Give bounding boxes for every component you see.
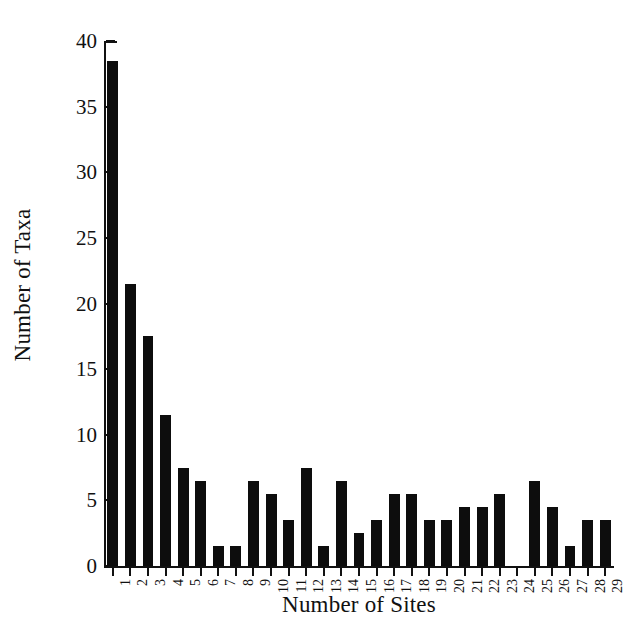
x-tick-label: 17 [400, 579, 414, 593]
y-tick-label: 40 [57, 31, 97, 52]
x-tick-mark [340, 568, 342, 576]
x-tick-label: 15 [365, 579, 379, 593]
x-tick-label: 1 [119, 579, 133, 586]
x-tick-mark [217, 568, 219, 576]
x-tick-label: 23 [506, 579, 520, 593]
x-tick-label: 27 [576, 579, 590, 593]
x-tick-mark [288, 568, 290, 576]
y-axis-title: Number of Taxa [0, 0, 46, 570]
bar [266, 494, 277, 566]
bar [600, 520, 611, 566]
x-tick-label: 26 [558, 579, 572, 593]
y-axis-title-text: Number of Taxa [10, 209, 36, 362]
x-tick-label: 16 [383, 579, 397, 593]
bar [547, 507, 558, 566]
x-tick-mark [358, 568, 360, 576]
bar [494, 494, 505, 566]
x-tick-mark [165, 568, 167, 576]
x-tick-mark [604, 568, 606, 576]
x-tick-mark [411, 568, 413, 576]
x-tick-label: 28 [594, 579, 608, 593]
x-tick-mark [129, 568, 131, 576]
x-tick-mark [182, 568, 184, 576]
x-tick-label: 29 [611, 579, 625, 593]
bar [195, 481, 206, 566]
x-tick-mark [499, 568, 501, 576]
bar [318, 546, 329, 566]
x-tick-mark [200, 568, 202, 576]
bar [336, 481, 347, 566]
x-tick-label: 20 [453, 579, 467, 593]
x-tick-label: 18 [418, 579, 432, 593]
x-tick-mark [305, 568, 307, 576]
bar [406, 494, 417, 566]
x-tick-label: 5 [189, 579, 203, 586]
x-tick-mark [446, 568, 448, 576]
bar [125, 284, 136, 566]
x-tick-label: 19 [435, 579, 449, 593]
bar [582, 520, 593, 566]
bar [283, 520, 294, 566]
x-tick-mark [551, 568, 553, 576]
y-tick-label: 5 [57, 490, 97, 511]
x-tick-label: 11 [295, 579, 309, 592]
y-tick-label: 15 [57, 359, 97, 380]
y-tick-label: 10 [57, 424, 97, 445]
x-tick-label: 24 [523, 579, 537, 593]
bars-group [104, 41, 614, 566]
x-tick-mark [270, 568, 272, 576]
x-tick-label: 21 [471, 579, 485, 593]
x-tick-label: 12 [312, 579, 326, 593]
x-tick-label: 6 [207, 579, 221, 586]
x-tick-mark [587, 568, 589, 576]
x-tick-mark [235, 568, 237, 576]
x-tick-label: 2 [136, 579, 150, 586]
x-tick-label: 25 [541, 579, 555, 593]
bar [301, 468, 312, 566]
x-tick-mark [516, 568, 518, 576]
x-tick-mark [252, 568, 254, 576]
bar [248, 481, 259, 566]
bar [529, 481, 540, 566]
bar [160, 415, 171, 566]
bar [354, 533, 365, 566]
bar [389, 494, 400, 566]
x-tick-mark [534, 568, 536, 576]
x-tick-label: 3 [154, 579, 168, 586]
bar [459, 507, 470, 566]
bar [371, 520, 382, 566]
bar [107, 61, 118, 566]
x-tick-label: 8 [242, 579, 256, 586]
x-tick-mark [323, 568, 325, 576]
y-tick-label: 30 [57, 162, 97, 183]
x-tick-label: 4 [172, 579, 186, 586]
bar [424, 520, 435, 566]
x-tick-mark [428, 568, 430, 576]
x-tick-mark [376, 568, 378, 576]
x-axis-title: Number of Sites [104, 592, 614, 618]
y-tick-label: 35 [57, 96, 97, 117]
bar [477, 507, 488, 566]
bar [213, 546, 224, 566]
x-tick-mark [393, 568, 395, 576]
x-tick-label: 14 [347, 579, 361, 593]
bar-chart-figure: Number of Taxa 0510152025303540 12345678… [0, 0, 637, 630]
x-tick-mark [147, 568, 149, 576]
x-tick-mark [464, 568, 466, 576]
y-tick-label: 25 [57, 227, 97, 248]
x-tick-label: 13 [330, 579, 344, 593]
y-tick-label: 20 [57, 293, 97, 314]
bar [143, 336, 154, 566]
x-tick-mark [112, 568, 114, 576]
plot-area: 0510152025303540 12345678910111213141516… [104, 41, 614, 566]
x-tick-mark [481, 568, 483, 576]
bar [178, 468, 189, 566]
y-tick-label: 0 [57, 556, 97, 577]
x-tick-label: 7 [224, 579, 238, 586]
x-tick-mark [569, 568, 571, 576]
bar [441, 520, 452, 566]
bar [565, 546, 576, 566]
x-tick-label: 10 [277, 579, 291, 593]
bar [230, 546, 241, 566]
x-tick-label: 22 [488, 579, 502, 593]
